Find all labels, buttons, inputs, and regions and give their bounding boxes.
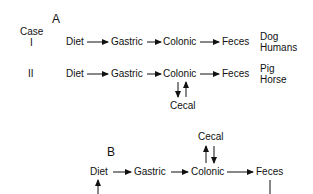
flow-arrows (0, 0, 313, 194)
